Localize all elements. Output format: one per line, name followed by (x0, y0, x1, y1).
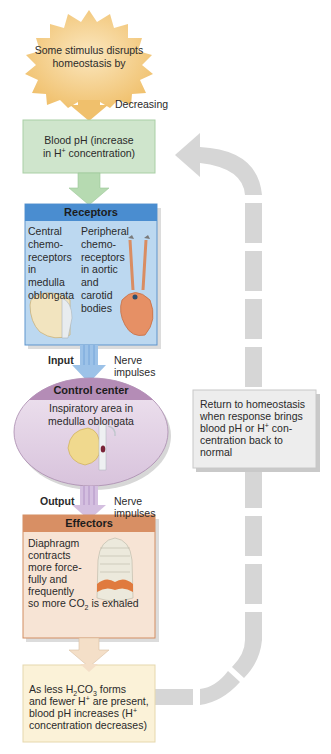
receptors-central: Central chemo- receptors in medulla oblo… (28, 225, 88, 302)
diagram-graphics (0, 0, 331, 754)
output-description-line-1: Nerve (114, 495, 155, 507)
return-line-3: blood pH or H+ con- (200, 422, 316, 434)
return-line-1: Return to homeostasis (200, 398, 316, 410)
response-text: As less H2CO3 forms and fewer H+ are pre… (29, 683, 157, 731)
return-line-4: centration back to (200, 434, 316, 446)
input-description-line-1: Nerve (114, 354, 155, 366)
response-line-1: As less H2CO3 forms (29, 683, 157, 695)
effectors-line: frequently (28, 585, 158, 597)
control-center-line-1: Inspiratory area in (15, 402, 167, 415)
central-line: oblongata (28, 289, 88, 302)
stimulus-arrow-label: Decreasing (115, 98, 168, 111)
central-line: in (28, 263, 88, 276)
peripheral-line: and (81, 276, 141, 289)
response-line-4: concentration decreases) (29, 719, 157, 731)
effectors-line-last: so more CO2 is exhaled (28, 597, 158, 609)
receptors-peripheral: Peripheral chemo- receptors in aortic an… (81, 225, 141, 315)
central-line: receptors (28, 251, 88, 264)
central-line: chemo- (28, 238, 88, 251)
peripheral-line: bodies (81, 302, 141, 315)
central-line: Central (28, 225, 88, 238)
effectors-line: Diaphragm (28, 537, 158, 549)
central-line: medulla (28, 276, 88, 289)
peripheral-line: in aortic (81, 263, 141, 276)
receptors-title: Receptors (25, 206, 157, 218)
stimulus-line-1: Some stimulus disrupts (30, 44, 148, 57)
effectors-line: more force- (28, 561, 158, 573)
input-arrow (72, 345, 106, 383)
stimulus-text: Some stimulus disrupts homeostasis by (30, 44, 148, 69)
peripheral-line: Peripheral (81, 225, 141, 238)
variable-line-2: in H+ concentration) (23, 147, 155, 160)
effectors-line: contracts (28, 549, 158, 561)
input-description-line-2: impulses (114, 366, 155, 378)
output-description: Nerve impulses (114, 495, 155, 519)
effectors-text: Diaphragm contracts more force- fully an… (28, 537, 158, 609)
output-label: Output (40, 495, 74, 507)
input-label: Input (48, 354, 74, 366)
effectors-line: fully and (28, 573, 158, 585)
peripheral-line: carotid (81, 289, 141, 302)
variable-line-1: Blood pH (increase (23, 134, 155, 147)
response-line-2: and fewer H+ are present, (29, 695, 157, 707)
control-center-line-2: medulla oblongata (15, 415, 167, 428)
control-center-text: Inspiratory area in medulla oblongata (15, 402, 167, 427)
return-line-2: when response brings (200, 410, 316, 422)
input-description: Nerve impulses (114, 354, 155, 378)
variable-arrow (69, 173, 109, 205)
variable-text: Blood pH (increase in H+ concentration) (23, 134, 155, 159)
peripheral-line: receptors (81, 251, 141, 264)
return-line-5: normal (200, 446, 316, 458)
stimulus-line-2: homeostasis by (30, 57, 148, 70)
response-line-3: blood pH increases (H+ (29, 707, 157, 719)
control-center-title: Control center (15, 384, 167, 396)
effectors-title: Effectors (23, 517, 155, 529)
return-text: Return to homeostasis when response brin… (200, 398, 316, 458)
peripheral-line: chemo- (81, 238, 141, 251)
effectors-arrow (69, 638, 109, 667)
